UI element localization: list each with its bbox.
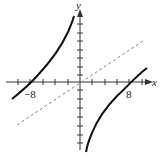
x-tick-label-neg8: −8 <box>24 88 36 100</box>
graph-figure: −8 8 x y <box>0 0 160 155</box>
x-tick-label-8: 8 <box>126 88 132 100</box>
y-axis-label: y <box>75 0 81 11</box>
curve-left-branch <box>12 16 74 99</box>
x-axis-label: x <box>151 76 157 88</box>
